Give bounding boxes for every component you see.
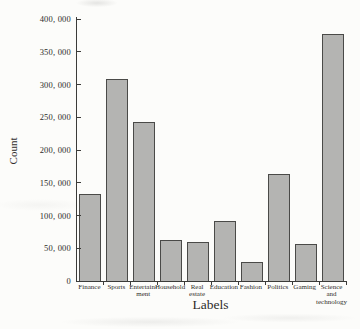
y-tick-mark-350000 [77, 51, 81, 52]
y-tick-label-0: 0 [28, 276, 71, 286]
bar-sports [106, 79, 128, 281]
y-tick-label-150000: 150, 000 [28, 178, 71, 188]
plot-area [76, 17, 346, 282]
bar-real-estate [187, 242, 209, 281]
bar-finance [79, 194, 101, 281]
y-tick-label-350000: 350, 000 [28, 47, 71, 57]
y-tick-label-50000: 50, 000 [28, 243, 71, 253]
bar-science-and-technology [322, 34, 344, 281]
y-axis-title: Count [7, 101, 21, 201]
y-tick-mark-250000 [77, 117, 81, 118]
bar-politics [268, 174, 290, 281]
y-tick-mark-200000 [77, 150, 81, 151]
y-tick-mark-0 [77, 281, 81, 282]
bar-chart-figure: Count 050, 000100, 000150, 000200, 00025… [0, 0, 360, 329]
bar-fashion [241, 262, 263, 281]
bar-entertainment [133, 122, 155, 281]
y-tick-mark-400000 [77, 19, 81, 20]
y-tick-label-100000: 100, 000 [28, 211, 71, 221]
x-axis-title: Labels [76, 297, 345, 313]
y-tick-mark-300000 [77, 84, 81, 85]
y-tick-mark-100000 [77, 215, 81, 216]
y-tick-label-250000: 250, 000 [28, 112, 71, 122]
bar-household [160, 240, 182, 281]
bar-gaming [295, 244, 317, 281]
y-tick-mark-150000 [77, 182, 81, 183]
y-tick-label-200000: 200, 000 [28, 145, 71, 155]
y-tick-label-300000: 300, 000 [28, 80, 71, 90]
y-tick-label-400000: 400, 000 [28, 14, 71, 24]
y-tick-mark-50000 [77, 248, 81, 249]
bar-education [214, 221, 236, 281]
